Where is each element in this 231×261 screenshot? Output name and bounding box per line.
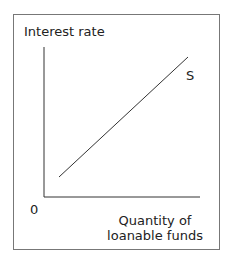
series-label-s: S — [186, 68, 194, 83]
x-axis-label: Quantity of loanable funds — [104, 213, 206, 243]
y-axis-label: Interest rate — [24, 24, 105, 39]
x-axis-label-line2: loanable funds — [104, 228, 206, 243]
supply-curve — [59, 57, 188, 177]
origin-label: 0 — [30, 202, 38, 217]
x-axis-label-line1: Quantity of — [104, 213, 206, 228]
